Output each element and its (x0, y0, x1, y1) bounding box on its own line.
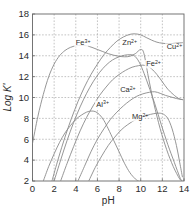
y-tick-label: 16 (18, 29, 29, 40)
x-tick-label: 14 (179, 183, 190, 194)
log-k-vs-ph-chart: 24681012141618 02468101214 Fe3+Cu2+Zn2+F… (0, 0, 194, 218)
series-label-al3+: Al3+ (95, 99, 109, 109)
series-label-zn2+: Zn2+ (121, 38, 137, 48)
y-tick-label: 6 (24, 134, 29, 145)
series-label-mg2+: Mg2+ (131, 112, 149, 122)
x-tick-label: 6 (95, 183, 100, 194)
x-tick-label: 12 (157, 183, 168, 194)
y-tick-label: 8 (24, 113, 29, 124)
series-label-text: Mg2+ (132, 112, 148, 121)
series-label-fe2+: Fe2+ (145, 59, 161, 69)
y-axis-tick-labels: 24681012141618 (18, 8, 29, 186)
x-tick-label: 10 (135, 183, 146, 194)
series-label-text: Ca2+ (120, 85, 136, 94)
chart-figure: 24681012141618 02468101214 Fe3+Cu2+Zn2+F… (0, 0, 194, 218)
y-tick-label: 4 (24, 154, 29, 165)
series-label-text: Cu2+ (167, 42, 183, 51)
series-label-cu2+: Cu2+ (165, 42, 182, 52)
series-label-ca2+: Ca2+ (119, 85, 136, 95)
x-tick-label: 4 (73, 183, 78, 194)
y-tick-label: 2 (24, 175, 29, 186)
x-tick-label: 0 (30, 183, 35, 194)
y-tick-label: 12 (18, 71, 29, 82)
gridlines (33, 14, 185, 181)
curve-fe2+ (61, 65, 183, 181)
y-tick-label: 10 (18, 92, 29, 103)
y-tick-label: 14 (18, 50, 29, 61)
y-axis-title-group: Log K' (2, 82, 13, 111)
x-tick-label: 8 (116, 183, 121, 194)
series-label-fe3+: Fe3+ (74, 38, 90, 48)
series-inline-labels: Fe3+Cu2+Zn2+Fe2+Al3+Ca2+Mg2+ (74, 38, 182, 122)
y-tick-label: 18 (18, 8, 29, 19)
y-axis-title: Log K' (2, 82, 13, 111)
curve-zn2+ (54, 55, 182, 181)
x-axis-title: pH (102, 195, 115, 206)
x-axis-tick-labels: 02468101214 (30, 183, 189, 194)
x-tick-label: 2 (51, 183, 56, 194)
